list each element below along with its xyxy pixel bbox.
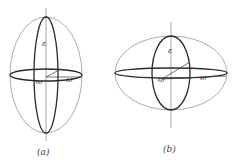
panel-a-label-omega-2: ω xyxy=(66,75,73,84)
panel-a-label-epsilon: ε xyxy=(42,39,46,48)
panel-b: ε ω ω (b) xyxy=(115,22,227,154)
panel-a-label-omega-1: ω xyxy=(36,77,43,86)
panel-b-label-omega-1: ω xyxy=(158,75,165,84)
panel-a-caption: (a) xyxy=(37,147,50,157)
panel-b-label-omega-2: ω xyxy=(200,73,207,82)
panel-a-radius-back xyxy=(46,69,61,77)
panel-b-radius-back xyxy=(162,62,190,79)
ellipsoid-figure: ε ω ω (a) ε ω ω (b) xyxy=(0,0,233,163)
panel-b-caption: (b) xyxy=(163,144,176,154)
panel-b-label-epsilon: ε xyxy=(168,46,172,55)
panel-a: ε ω ω (a) xyxy=(10,8,82,157)
